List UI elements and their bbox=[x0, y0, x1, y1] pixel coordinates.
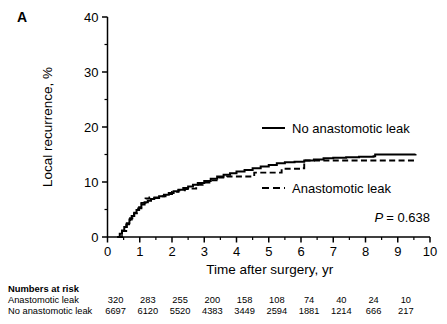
series-curve-anastomotic-leak bbox=[118, 161, 416, 237]
risk-value: 666 bbox=[366, 306, 382, 317]
risk-value: 3449 bbox=[234, 306, 255, 317]
risk-value: 255 bbox=[172, 295, 188, 306]
risk-value: 24 bbox=[368, 295, 378, 306]
risk-value: 74 bbox=[304, 295, 314, 306]
x-tick-label: 1 bbox=[136, 244, 143, 259]
risk-table-row: Anastomotic leak320283255200158108744024… bbox=[8, 295, 444, 306]
y-axis-title: Local recurrence, % bbox=[40, 67, 55, 187]
numbers-at-risk-table: Numbers at risk Anastomotic leak32028325… bbox=[8, 283, 444, 318]
risk-value: 320 bbox=[108, 295, 124, 306]
x-tick-label: 4 bbox=[233, 244, 240, 259]
risk-value: 4383 bbox=[202, 306, 223, 317]
risk-value: 6120 bbox=[138, 306, 159, 317]
p-symbol: P bbox=[375, 210, 384, 225]
risk-table-row: No anastomotic leak669761205520438334492… bbox=[8, 306, 444, 317]
y-tick-label: 40 bbox=[84, 10, 98, 25]
y-tick-label: 10 bbox=[84, 175, 98, 190]
risk-value: 40 bbox=[336, 295, 346, 306]
risk-value: 217 bbox=[398, 306, 414, 317]
p-value-text: P= 0.638 bbox=[375, 210, 430, 225]
risk-value: 108 bbox=[269, 295, 285, 306]
x-tick-label: 9 bbox=[394, 244, 401, 259]
risk-value: 283 bbox=[140, 295, 156, 306]
x-tick-label: 5 bbox=[265, 244, 272, 259]
figure-panel-a: A 012345678910010203040 No anastomotic l… bbox=[0, 0, 447, 324]
y-tick-label: 0 bbox=[91, 230, 98, 245]
risk-value: 2594 bbox=[267, 306, 288, 317]
p-value-number: = 0.638 bbox=[386, 210, 430, 225]
risk-table-title: Numbers at risk bbox=[8, 283, 444, 294]
x-tick-label: 10 bbox=[423, 244, 437, 259]
risk-value: 5520 bbox=[170, 306, 191, 317]
x-tick-label: 7 bbox=[330, 244, 337, 259]
x-tick-label: 8 bbox=[362, 244, 369, 259]
risk-value: 1214 bbox=[331, 306, 352, 317]
risk-value: 200 bbox=[205, 295, 221, 306]
legend-item-no-anastomotic-leak: No anastomotic leak bbox=[292, 121, 410, 136]
risk-value: 158 bbox=[237, 295, 253, 306]
risk-row-label: No anastomotic leak bbox=[8, 306, 92, 317]
x-tick-label: 3 bbox=[201, 244, 208, 259]
risk-value: 10 bbox=[401, 295, 411, 306]
p-value-annotation: P= 0.638 bbox=[375, 210, 430, 225]
x-tick-label: 2 bbox=[168, 244, 175, 259]
x-axis-title: Time after surgery, yr bbox=[206, 262, 333, 277]
kaplan-meier-plot: 012345678910010203040 No anastomotic lea… bbox=[0, 0, 447, 324]
x-tick-label: 0 bbox=[104, 244, 111, 259]
y-tick-label: 30 bbox=[84, 65, 98, 80]
risk-row-label: Anastomotic leak bbox=[8, 295, 79, 306]
y-tick-label: 20 bbox=[84, 120, 98, 135]
x-tick-label: 6 bbox=[297, 244, 304, 259]
risk-table-rows: Anastomotic leak320283255200158108744024… bbox=[8, 295, 444, 318]
legend-item-anastomotic-leak: Anastomotic leak bbox=[292, 181, 391, 196]
risk-value: 6697 bbox=[105, 306, 126, 317]
risk-value: 1881 bbox=[299, 306, 320, 317]
axis-titles: Time after surgery, yrLocal recurrence, … bbox=[40, 67, 334, 277]
